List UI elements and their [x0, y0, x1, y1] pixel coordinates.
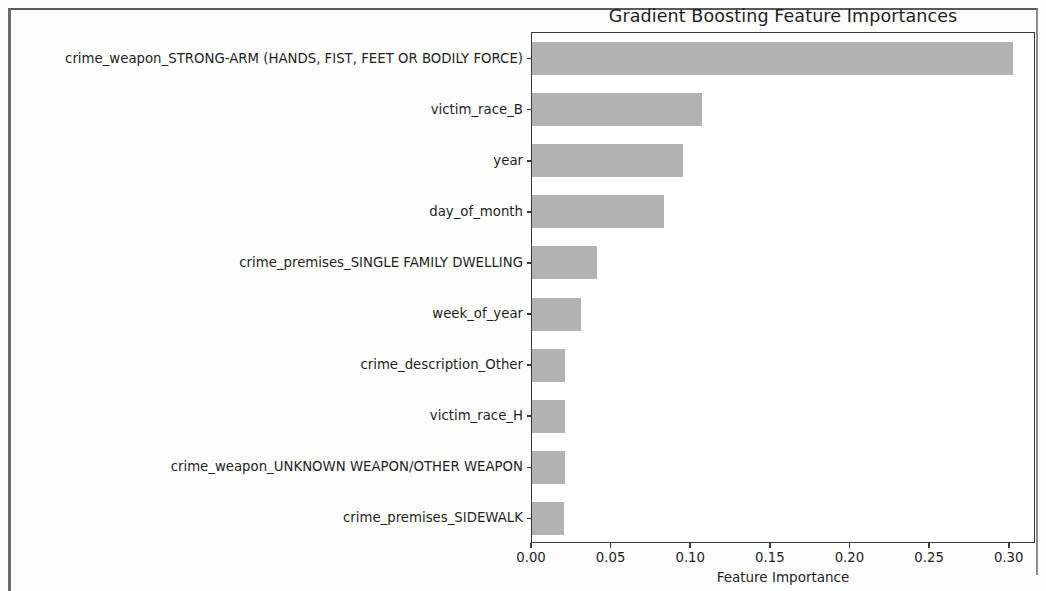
x-tick-mark: [1008, 543, 1010, 548]
y-tick-label: crime_premises_SIDEWALK: [343, 510, 523, 525]
feature-importance-figure: Gradient Boosting Feature Importances cr…: [0, 0, 1046, 591]
y-tick-label: year: [493, 152, 523, 167]
y-tick-label: crime_weapon_UNKNOWN WEAPON/OTHER WEAPON: [171, 459, 523, 474]
scanned-page: Gradient Boosting Feature Importances cr…: [0, 0, 1046, 591]
y-tick-label: victim_race_H: [430, 408, 523, 423]
x-tick-mark: [689, 543, 691, 548]
x-tick-label: 0.25: [914, 550, 944, 565]
x-tick-label: 0.05: [596, 550, 626, 565]
y-tick-label: crime_premises_SINGLE FAMILY DWELLING: [239, 254, 523, 269]
y-tick-label: victim_race_B: [431, 101, 523, 116]
x-axis-title: Feature Importance: [531, 569, 1035, 585]
x-tick-mark: [849, 543, 851, 548]
y-tick-label: week_of_year: [432, 306, 523, 321]
y-axis-labels: crime_weapon_STRONG-ARM (HANDS, FIST, FE…: [0, 0, 1046, 591]
x-tick-mark: [769, 543, 771, 548]
x-tick-mark: [928, 543, 930, 548]
y-tick-label: day_of_month: [429, 203, 523, 218]
x-tick-mark: [610, 543, 612, 548]
x-tick-mark: [530, 543, 532, 548]
x-tick-label: 0.00: [516, 550, 546, 565]
y-tick-label: crime_description_Other: [360, 357, 523, 372]
x-tick-label: 0.30: [994, 550, 1024, 565]
x-tick-label: 0.10: [675, 550, 705, 565]
y-tick-label: crime_weapon_STRONG-ARM (HANDS, FIST, FE…: [65, 50, 523, 65]
x-tick-label: 0.15: [755, 550, 785, 565]
x-tick-label: 0.20: [835, 550, 865, 565]
